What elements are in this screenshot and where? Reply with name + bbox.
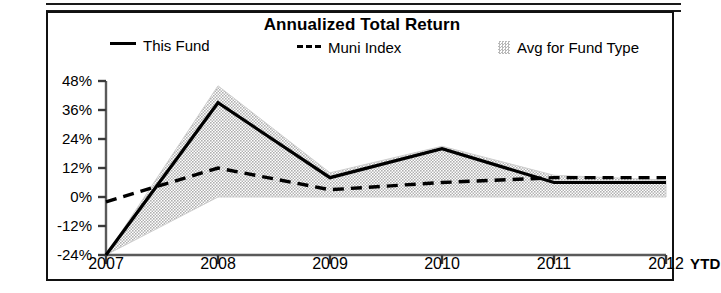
chart-panel: Annualized Total Return This Fund Muni I…: [46, 11, 674, 281]
chart-plot-svg: [48, 59, 676, 281]
chart-legend: This Fund Muni Index Avg for Fund Type: [48, 37, 676, 57]
x-axis-tick-label: 2012: [648, 255, 684, 273]
x-axis-ytd-label: YTD: [690, 255, 721, 273]
x-axis-tick-label: 2010: [424, 255, 460, 273]
legend-item-this-fund: This Fund: [110, 37, 210, 54]
legend-item-muni-index: Muni Index: [297, 39, 401, 56]
shaded-box-swatch-icon: [498, 41, 510, 54]
chart-title: Annualized Total Return: [48, 15, 676, 34]
dashed-line-swatch-icon: [297, 45, 321, 48]
legend-label-this-fund: This Fund: [143, 37, 210, 54]
legend-item-avg-fund-type: Avg for Fund Type: [498, 39, 639, 56]
x-axis-labels: 200720082009201020112012YTD: [48, 255, 676, 281]
legend-label-muni-index: Muni Index: [328, 39, 401, 56]
x-axis-tick-label: 2008: [200, 255, 236, 273]
legend-label-avg-fund-type: Avg for Fund Type: [517, 39, 639, 56]
solid-line-swatch-icon: [110, 42, 136, 45]
plot-area: 48%36%24%12%0%-12%-24% 20072008200920102…: [48, 59, 676, 281]
x-axis-tick-label: 2007: [88, 255, 124, 273]
series-band-avg-for-fund-type: [106, 86, 666, 255]
x-axis-tick-label: 2011: [537, 255, 571, 273]
x-axis-tick-label: 2009: [312, 255, 348, 273]
